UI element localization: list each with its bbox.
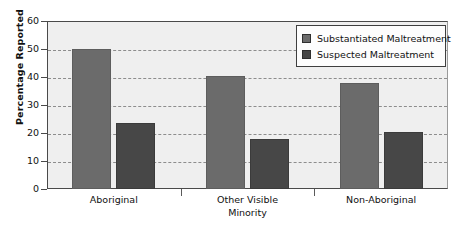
legend-item-suspected: Suspected Maltreatment — [302, 46, 439, 62]
bar — [206, 76, 245, 189]
x-axis-category-label: Other Visible Minority — [181, 194, 315, 219]
x-axis-category-label: Aboriginal — [47, 194, 181, 207]
bar — [250, 139, 289, 189]
y-tick-label: 0 — [33, 183, 39, 195]
bar — [72, 49, 111, 189]
y-tick-label: 30 — [27, 99, 39, 111]
y-tick-label: 20 — [27, 127, 39, 139]
legend-item-substantiated: Substantiated Maltreatment — [302, 30, 439, 46]
suspected-swatch-icon — [302, 50, 311, 59]
y-tick-label: 50 — [27, 43, 39, 55]
y-tick-label: 40 — [27, 71, 39, 83]
legend-label-suspected: Suspected Maltreatment — [317, 49, 434, 60]
bar — [116, 123, 155, 189]
y-tick-label: 10 — [27, 155, 39, 167]
y-axis-ticks: 0102030405060 — [0, 0, 47, 232]
legend-label-substantiated: Substantiated Maltreatment — [317, 33, 451, 44]
bar — [384, 132, 423, 189]
x-axis-category-label: Non-Aboriginal — [314, 194, 448, 207]
substantiated-swatch-icon — [302, 34, 311, 43]
legend: Substantiated Maltreatment Suspected Mal… — [296, 25, 446, 67]
bar-chart: Percentage Reported 0102030405060 Substa… — [0, 0, 466, 232]
bar — [340, 83, 379, 189]
y-tick-label: 60 — [27, 15, 39, 27]
